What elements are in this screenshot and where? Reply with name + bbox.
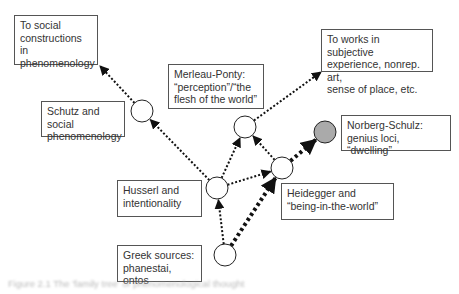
box-merleau-ponty: Merleau-Ponty: “perception”/“the flesh o…	[168, 64, 264, 109]
edge-n-greek-to-n-husserl	[218, 200, 223, 244]
box-husserl: Husserl and intentionality	[117, 180, 202, 217]
box-greek-sources: Greek sources: phanestai, ontos	[117, 245, 202, 282]
edge-n-heidegger-to-n-merleau	[253, 136, 275, 160]
edge-n-husserl-to-n-schutz	[150, 120, 209, 181]
box-norberg-schulz: Norberg-Schulz: genius loci, “dwelling”	[341, 115, 451, 151]
edge-n-husserl-to-n-merleau	[222, 138, 240, 178]
node-norberg	[314, 121, 336, 143]
node-heidegger	[271, 157, 293, 179]
node-husserl	[206, 177, 228, 199]
box-heidegger: Heidegger and “being-in-the-world”	[281, 183, 394, 220]
node-greek	[214, 244, 236, 266]
edge-n-husserl-to-n-heidegger	[228, 172, 271, 185]
figure-caption: Figure 2.1 The 'family tree' of phenomen…	[8, 278, 244, 289]
edge-n-heidegger-to-n-norberg	[290, 140, 315, 161]
edge-n-schutz-to-social	[100, 66, 134, 103]
edge-n-greek-to-n-heidegger	[231, 178, 275, 246]
box-subjective-works: To works in subjective experience, nonre…	[321, 29, 433, 72]
box-schutz: Schutz and social phenomenology	[41, 101, 125, 137]
node-merleau	[234, 116, 256, 138]
node-schutz	[131, 100, 153, 122]
box-social-constructions: To social constructions in phenomenology	[14, 15, 98, 65]
